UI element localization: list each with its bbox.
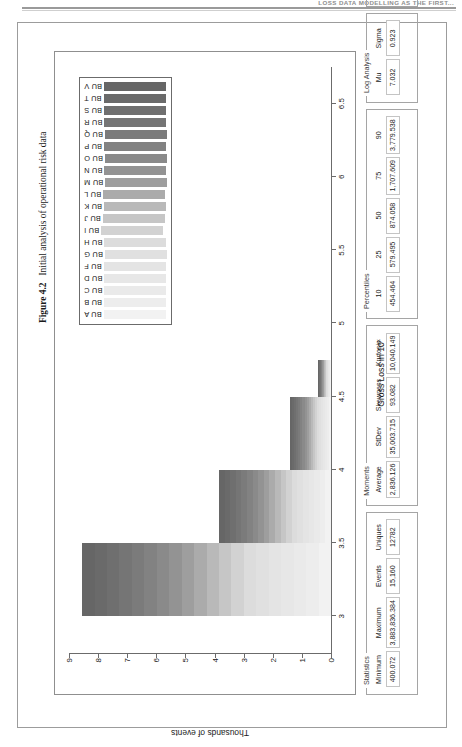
legend-item-swatch: [104, 263, 166, 272]
y-axis-tick-mark: [215, 653, 216, 658]
legend-item[interactable]: BU L: [84, 190, 165, 201]
legend-item[interactable]: BU B: [84, 298, 166, 309]
legend-item-label: BU A: [84, 311, 102, 320]
legend-item-label: BU Q: [84, 131, 103, 140]
chart-rotation-host: 012345678933.544.555.566.5BU ABU BBU CBU…: [48, 37, 428, 709]
y-axis-tick-label: 6: [152, 658, 161, 662]
histogram-bar-segment: [219, 543, 231, 616]
histogram-bar-segment: [244, 543, 256, 616]
legend-item[interactable]: BU R: [84, 118, 166, 129]
histogram-bar-segment: [182, 543, 194, 616]
legend-item-label: BU C: [84, 287, 102, 296]
y-axis-tick-mark: [331, 653, 332, 658]
legend-item-label: BU N: [84, 167, 102, 176]
y-axis-tick-label: 3: [239, 658, 248, 662]
histogram-bar-segment: [269, 543, 281, 616]
y-axis-tick-label: 8: [94, 658, 103, 662]
legend-item[interactable]: BU J: [84, 214, 165, 225]
chart-legend: BU ABU BBU CBU DBU FBU GBU HBU IBU JBU K…: [79, 77, 172, 325]
legend-item-swatch: [104, 167, 166, 176]
x-axis-tick-mark: [331, 249, 336, 250]
y-axis-tick-mark: [69, 653, 70, 658]
histogram-bar: [82, 543, 331, 616]
figure-caption: Figure 4.2 Initial analysis of operation…: [38, 132, 48, 323]
histogram-bar: [219, 470, 331, 543]
legend-item[interactable]: BU M: [84, 178, 167, 189]
legend-item[interactable]: BU G: [84, 250, 167, 261]
legend-item-swatch: [104, 287, 166, 296]
legend-item[interactable]: BU I: [84, 226, 163, 237]
legend-item[interactable]: BU Q: [84, 130, 167, 141]
histogram-bar-segment: [169, 543, 181, 616]
legend-item-label: BU I: [84, 227, 99, 236]
x-axis-label-text: Gross Loss in 10: [376, 342, 386, 406]
legend-item-label: BU L: [84, 191, 101, 200]
x-axis-tick-label: 6: [337, 175, 346, 179]
histogram-bar-segment: [82, 543, 94, 616]
histogram-bar-segment: [325, 470, 331, 543]
legend-item[interactable]: BU A: [84, 310, 166, 321]
legend-item[interactable]: BU H: [84, 238, 166, 249]
legend-item-swatch: [104, 95, 166, 104]
legend-item-swatch: [104, 107, 166, 116]
legend-item-label: BU H: [84, 239, 102, 248]
histogram-bar-segment: [231, 543, 243, 616]
x-axis-tick-label: 5.5: [337, 245, 346, 256]
histogram-bar-segment: [157, 543, 169, 616]
legend-item-label: BU F: [84, 263, 102, 272]
x-axis-tick-mark: [331, 396, 336, 397]
y-axis-tick-label: 9: [65, 658, 74, 662]
histogram-bar-segment: [330, 360, 331, 397]
legend-item[interactable]: BU C: [84, 286, 166, 297]
x-axis-tick-label: 4.5: [337, 391, 346, 402]
x-axis-label: Gross Loss in 10x: [375, 339, 386, 406]
legend-item[interactable]: BU V: [84, 82, 166, 93]
legend-item[interactable]: BU P: [84, 142, 166, 153]
legend-item[interactable]: BU N: [84, 166, 166, 177]
histogram-bar-segment: [294, 543, 306, 616]
legend-item-swatch: [103, 191, 165, 200]
x-axis-tick-label: 5: [337, 321, 346, 325]
legend-item-swatch: [104, 143, 166, 152]
legend-item-swatch: [105, 251, 167, 260]
x-axis-tick-mark: [331, 469, 336, 470]
y-axis-tick-label: 4: [210, 658, 219, 662]
x-axis-tick-label: 3: [337, 614, 346, 618]
legend-item-swatch: [105, 155, 167, 164]
legend-item-label: BU K: [84, 203, 102, 212]
running-head: LOSS DATA MODELLING AS THE FIRST...: [318, 0, 454, 5]
histogram-bar-segment: [256, 543, 268, 616]
histogram-bar-segment: [281, 543, 293, 616]
legend-item[interactable]: BU T: [84, 94, 166, 105]
y-axis-tick-label: 2: [268, 658, 277, 662]
figure-caption-text: Initial analysis of operational risk dat…: [38, 132, 48, 276]
legend-item-label: BU R: [84, 119, 102, 128]
header-rule-light: [22, 10, 456, 11]
plot-panel-border: 012345678933.544.555.566.5BU ABU BBU CBU…: [54, 51, 356, 695]
x-axis-tick-mark: [331, 615, 336, 616]
legend-item[interactable]: BU K: [84, 202, 166, 213]
histogram-bar-segment: [306, 543, 318, 616]
legend-item-label: BU O: [84, 155, 103, 164]
x-axis-tick-mark: [331, 103, 336, 104]
y-axis-tick-mark: [302, 653, 303, 658]
chart-canvas: 012345678933.544.555.566.5BU ABU BBU CBU…: [48, 37, 428, 709]
histogram-bar: [318, 360, 331, 397]
y-axis-label: Thousands of events: [171, 728, 249, 738]
histogram-bar-segment: [132, 543, 144, 616]
histogram-bar-segment: [319, 543, 331, 616]
histogram-bar-segment: [144, 543, 156, 616]
x-axis-tick-label: 6.5: [337, 98, 346, 109]
legend-item-swatch: [104, 311, 166, 320]
legend-item-swatch: [101, 227, 163, 236]
legend-item-swatch: [104, 275, 166, 284]
legend-item-label: BU B: [84, 299, 102, 308]
legend-item[interactable]: BU O: [84, 154, 167, 165]
figure-caption-label: Figure 4.2: [38, 283, 48, 323]
x-axis-tick-mark: [331, 322, 336, 323]
legend-item[interactable]: BU D: [84, 274, 166, 285]
legend-item[interactable]: BU S: [84, 106, 166, 117]
legend-item[interactable]: BU F: [84, 262, 166, 273]
legend-item-label: BU D: [84, 275, 102, 284]
y-axis-tick-label: 1: [297, 658, 306, 662]
